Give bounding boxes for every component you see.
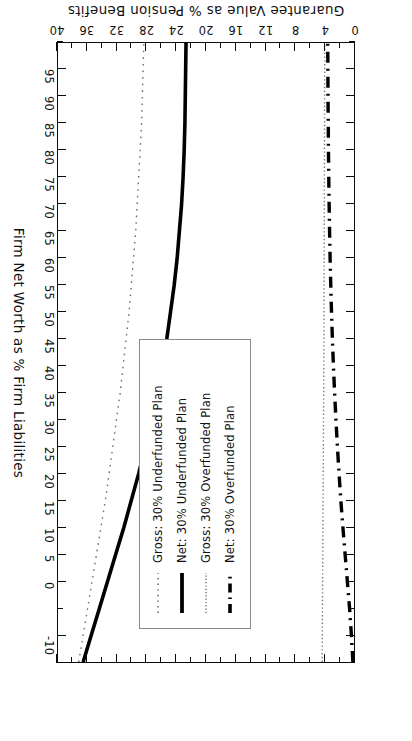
x-axis-tick — [346, 392, 355, 393]
y-axis-tick — [131, 42, 132, 48]
y-tick-label: 0 — [351, 23, 359, 37]
x-axis-tick — [349, 608, 355, 609]
plot-area: Gross: 30% Underfunded Plan Net: 30% Und… — [57, 42, 355, 663]
y-axis-tick — [101, 657, 102, 663]
legend: Gross: 30% Underfunded Plan Net: 30% Und… — [139, 339, 251, 629]
x-axis-tick — [57, 662, 63, 663]
x-axis-tick — [57, 41, 63, 42]
x-axis-tick — [346, 500, 355, 501]
y-tick-label: 8 — [292, 23, 300, 37]
x-tick-label: -10 — [42, 636, 56, 655]
x-tick-label: 75 — [42, 177, 56, 192]
x-axis-tick — [57, 311, 66, 312]
x-axis-tick — [346, 230, 355, 231]
x-axis-tick — [57, 338, 66, 339]
y-axis-tick — [294, 42, 295, 51]
y-tick-label: 36 — [79, 23, 94, 37]
y-axis-tick — [116, 654, 117, 663]
legend-item: Net: 30% Underfunded Plan — [170, 348, 194, 614]
y-axis-tick — [175, 654, 176, 663]
chart-figure: Gross: 30% Underfunded Plan Net: 30% Und… — [0, 0, 412, 741]
legend-label: Net: 30% Underfunded Plan — [175, 398, 189, 563]
y-axis-tick — [265, 42, 266, 51]
x-tick-label: 45 — [42, 339, 56, 354]
x-tick-label: 10 — [42, 528, 56, 543]
y-tick-label: 12 — [258, 23, 273, 37]
y-axis-tick — [160, 657, 161, 663]
y-axis-tick — [339, 657, 340, 663]
x-axis-tick — [346, 419, 355, 420]
y-axis-tick — [116, 42, 117, 51]
y-axis-tick — [339, 42, 340, 48]
x-axis-tick — [346, 149, 355, 150]
x-axis-tick — [57, 500, 66, 501]
x-axis-tick — [346, 203, 355, 204]
y-tick-label: 32 — [109, 23, 124, 37]
legend-swatch-gross-overfunded — [199, 572, 213, 614]
x-axis-title: Firm Net Worth as % Firm Liabilities — [11, 228, 27, 478]
x-tick-label: 70 — [42, 204, 56, 219]
x-tick-label: 55 — [42, 285, 56, 300]
x-tick-label: 60 — [42, 258, 56, 273]
y-axis-tick — [160, 42, 161, 48]
x-axis-tick — [57, 68, 66, 69]
y-axis-tick — [280, 42, 281, 48]
y-axis-tick — [309, 42, 310, 48]
y-axis-tick — [71, 657, 72, 663]
x-tick-label: 15 — [42, 501, 56, 516]
y-axis-tick — [220, 42, 221, 48]
x-tick-label: 35 — [42, 393, 56, 408]
y-axis-tick — [354, 654, 355, 663]
y-axis-title: Guarantee Value as % Pension Benefits — [68, 3, 345, 19]
x-tick-label: 90 — [42, 96, 56, 111]
x-axis-tick — [346, 311, 355, 312]
y-axis-tick — [324, 654, 325, 663]
x-axis-tick — [346, 581, 355, 582]
x-tick-label: 5 — [42, 555, 56, 563]
x-axis-tick — [346, 284, 355, 285]
y-axis-tick — [71, 42, 72, 48]
x-tick-label: 25 — [42, 447, 56, 462]
y-axis-tick — [294, 654, 295, 663]
y-axis-tick — [56, 42, 57, 51]
y-tick-label: 4 — [321, 23, 329, 37]
x-axis-tick — [57, 446, 66, 447]
x-axis-tick — [346, 473, 355, 474]
y-axis-tick — [131, 657, 132, 663]
x-axis-tick — [57, 176, 66, 177]
x-tick-label: 85 — [42, 123, 56, 138]
y-axis-tick — [324, 42, 325, 51]
legend-item: Gross: 30% Overfunded Plan — [194, 348, 218, 614]
x-tick-label: 95 — [42, 69, 56, 84]
x-axis-tick — [346, 635, 355, 636]
legend-swatch-net-underfunded — [175, 572, 189, 614]
x-tick-label: 65 — [42, 231, 56, 246]
y-axis-tick — [220, 657, 221, 663]
y-axis-tick — [145, 654, 146, 663]
legend-swatch-net-overfunded — [223, 572, 237, 614]
x-axis-tick — [57, 419, 66, 420]
y-axis-tick — [56, 654, 57, 663]
x-axis-tick — [346, 446, 355, 447]
y-axis-tick — [309, 657, 310, 663]
y-axis-tick — [145, 42, 146, 51]
y-axis-tick — [175, 42, 176, 51]
y-axis-tick — [101, 42, 102, 48]
x-axis-tick — [57, 527, 66, 528]
y-axis-tick — [205, 42, 206, 51]
y-axis-tick — [354, 42, 355, 51]
y-axis-tick — [250, 657, 251, 663]
x-tick-label: 40 — [42, 366, 56, 381]
legend-label: Gross: 30% Overfunded Plan — [199, 393, 213, 563]
y-axis-tick — [250, 42, 251, 48]
x-axis-tick — [57, 635, 66, 636]
y-axis-tick — [235, 42, 236, 51]
x-axis-tick — [57, 608, 63, 609]
x-tick-label: 50 — [42, 312, 56, 327]
y-tick-label: 16 — [228, 23, 243, 37]
x-axis-tick — [346, 122, 355, 123]
y-axis-tick — [235, 654, 236, 663]
x-tick-label: 30 — [42, 420, 56, 435]
x-axis-tick — [57, 581, 66, 582]
x-tick-label: 20 — [42, 474, 56, 489]
